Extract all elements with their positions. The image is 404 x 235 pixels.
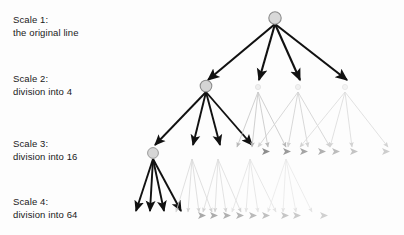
label-scale-1-title: Scale 1: bbox=[13, 14, 79, 27]
edges-level-2-faded-c bbox=[300, 92, 388, 147]
node-root[interactable] bbox=[269, 12, 281, 24]
label-scale-3-title: Scale 3: bbox=[13, 138, 77, 151]
label-scale-4-subtitle: division into 64 bbox=[13, 209, 77, 222]
level-4-node-heads bbox=[198, 212, 328, 219]
edges-level-3-faded-a bbox=[176, 159, 212, 212]
edges-level-2-faded-b bbox=[258, 92, 330, 147]
level-2-faint-nodes bbox=[255, 84, 347, 89]
label-scale-1-subtitle: the original line bbox=[13, 27, 79, 40]
label-scale-2: Scale 2: division into 4 bbox=[13, 73, 72, 98]
edges-level-2-faded-a bbox=[237, 92, 286, 147]
node-level-2-active[interactable] bbox=[200, 80, 212, 92]
edges-level-3-faded-d bbox=[268, 159, 312, 212]
label-scale-4-title: Scale 4: bbox=[13, 196, 77, 209]
figure-root: Scale 1: the original line Scale 2: divi… bbox=[0, 0, 404, 235]
label-scale-2-title: Scale 2: bbox=[13, 73, 72, 86]
label-scale-2-subtitle: division into 4 bbox=[13, 86, 72, 99]
label-scale-3: Scale 3: division into 16 bbox=[13, 138, 77, 163]
edges-level-1 bbox=[208, 24, 347, 80]
label-scale-4: Scale 4: division into 64 bbox=[13, 196, 77, 221]
level-3-node-heads bbox=[262, 148, 390, 155]
label-scale-1: Scale 1: the original line bbox=[13, 14, 79, 39]
edges-level-3-faded-c bbox=[232, 159, 276, 212]
edges-level-2-active bbox=[155, 92, 252, 145]
edges-level-3-active bbox=[136, 159, 181, 211]
node-level-3-active[interactable] bbox=[148, 148, 159, 159]
label-scale-3-subtitle: division into 16 bbox=[13, 151, 77, 164]
